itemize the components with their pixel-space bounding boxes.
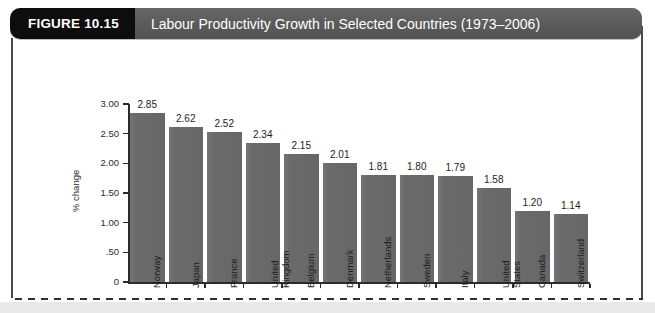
bar-value-label: 1.79 — [432, 163, 479, 173]
x-axis-tick — [397, 284, 399, 288]
chart-plot-area: % change 0.501.001.502.002.503.00 2.852.… — [13, 44, 640, 294]
figure-title-bar: FIGURE 10.15 Labour Productivity Growth … — [10, 8, 642, 39]
x-axis-category-label-line: Canada — [536, 255, 547, 288]
bar-value-label: 2.01 — [317, 150, 364, 160]
x-axis-category-label-line: Norway — [151, 256, 162, 288]
x-axis-category-label: Denmark — [344, 249, 355, 288]
x-axis-category-label: Switzerland — [575, 239, 586, 288]
x-axis-tick — [243, 284, 245, 288]
x-axis-category-label-line: United — [269, 251, 280, 289]
x-axis-category-label: Italy — [459, 271, 470, 288]
x-axis-tick — [166, 284, 168, 288]
x-axis-category-label: UnitedKingdom — [269, 251, 291, 289]
x-axis-category-label-line: Japan — [190, 262, 201, 288]
bar-value-label: 2.85 — [124, 100, 171, 110]
dotted-separator — [12, 297, 643, 301]
bar-value-label: 2.34 — [240, 130, 287, 140]
x-axis-tick — [320, 284, 322, 288]
x-axis-category-label: France — [228, 258, 239, 288]
x-axis-tick — [474, 284, 476, 288]
bar-value-label: 1.14 — [548, 201, 595, 211]
x-axis-category-label-line: Denmark — [344, 249, 355, 288]
bar — [169, 127, 204, 282]
figure-title-text: Labour Productivity Growth in Selected C… — [135, 8, 642, 39]
page-bottom-band — [0, 302, 655, 313]
x-axis-category-label: Netherlands — [382, 237, 393, 288]
x-axis-category-label: Japan — [190, 262, 201, 288]
x-axis-category-label-line: Italy — [459, 271, 470, 288]
x-axis-tick — [204, 284, 206, 288]
x-axis-category-label: Norway — [151, 256, 162, 288]
figure-page: FIGURE 10.15 Labour Productivity Growth … — [0, 0, 655, 313]
x-axis-category-label: UnitedStates — [500, 261, 522, 288]
x-axis-category-label: Belgium — [305, 254, 316, 288]
x-axis-category-label: Sweden — [421, 254, 432, 288]
x-axis-category-label-line: France — [228, 258, 239, 288]
x-axis-category-label-line: Kingdom — [280, 251, 291, 289]
x-axis-tick — [551, 284, 553, 288]
x-axis-category-label-line: States — [511, 261, 522, 288]
bar-value-label: 1.58 — [471, 175, 518, 185]
x-axis-category-label-line: United — [500, 261, 511, 288]
x-axis-tick — [358, 284, 360, 288]
x-axis-category-label-line: Sweden — [421, 254, 432, 288]
x-axis-category-label-line: Switzerland — [575, 239, 586, 288]
page-right-rule — [641, 26, 643, 298]
bar — [438, 176, 473, 282]
x-axis-category-label: Canada — [536, 255, 547, 288]
x-axis-category-label-line: Belgium — [305, 254, 316, 288]
bar-value-label: 2.52 — [201, 119, 248, 129]
x-axis-category-label-line: Netherlands — [382, 237, 393, 288]
x-axis-tick — [435, 284, 437, 288]
x-axis-tick — [589, 284, 591, 288]
figure-number-label: FIGURE 10.15 — [10, 8, 135, 39]
